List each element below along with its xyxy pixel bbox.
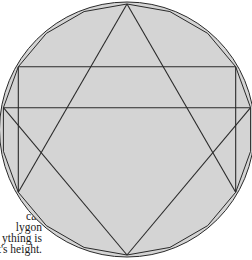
outer-circle bbox=[0, 2, 252, 257]
inscribed-polygon-diagram bbox=[0, 0, 252, 260]
